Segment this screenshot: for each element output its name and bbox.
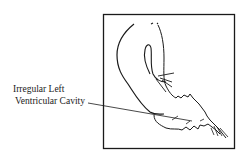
ventriculogram-drawing [0, 0, 248, 160]
annotation-label-line1: Irregular Left [13, 84, 64, 95]
cavity-outer-contour [117, 24, 164, 114]
cavity-lower-contour [154, 115, 220, 134]
cavity-inner-contour [158, 25, 226, 138]
annotation-label-line2: Ventricular Cavity [15, 96, 85, 107]
branch-strands [156, 73, 174, 92]
diagram-canvas: Irregular Left Ventricular Cavity [0, 0, 248, 160]
aortic-mark [151, 23, 158, 24]
septal-loop [144, 45, 166, 82]
